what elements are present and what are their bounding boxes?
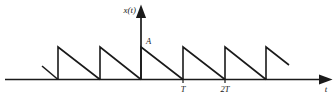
waveform-segment-cycle-3 xyxy=(141,47,183,80)
tick-label-2T: 2T xyxy=(221,84,231,94)
tick-label-T: T xyxy=(181,84,187,94)
waveform-segment-partial-left xyxy=(42,66,58,80)
waveform-segment-cycle-5 xyxy=(225,47,266,80)
x-axis-label: t xyxy=(325,84,328,94)
y-axis-label: x(t) xyxy=(123,5,137,15)
sawtooth-waveform-figure: x(t) t A T 2T xyxy=(0,0,336,106)
figure-canvas: x(t) t A T 2T xyxy=(0,0,336,106)
amplitude-label: A xyxy=(145,36,152,46)
waveform-segment-cycle-1 xyxy=(58,47,100,80)
sawtooth-waveform xyxy=(42,47,289,80)
waveform-segment-partial-right xyxy=(266,47,289,80)
waveform-segment-cycle-4 xyxy=(183,47,225,80)
waveform-segment-cycle-2 xyxy=(100,47,141,80)
